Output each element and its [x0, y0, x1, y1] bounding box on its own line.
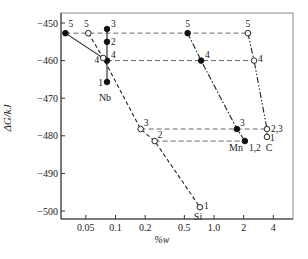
- x-axis-label: %w: [155, 234, 170, 245]
- point-label: 4: [205, 50, 210, 60]
- y-tick-label: −470: [37, 93, 58, 104]
- y-tick-label: −460: [37, 55, 58, 66]
- marker-mn-5: [185, 30, 191, 36]
- marker-c-5: [245, 30, 251, 36]
- point-label: 5: [246, 19, 251, 29]
- data-markers: [63, 26, 270, 210]
- series-line-mn: [188, 33, 245, 141]
- point-label: 3: [240, 118, 245, 128]
- x-tick-label: 0.2: [139, 222, 152, 233]
- axes: −450−460−470−480−490−5000.050.10.20.51.0…: [37, 13, 293, 233]
- series-label-c: C: [266, 142, 273, 153]
- x-tick-label: 4: [271, 222, 276, 233]
- marker-mn-4: [198, 58, 204, 64]
- marker-nb-5: [63, 30, 69, 36]
- series-line-c: [248, 33, 267, 137]
- point-label: 5: [84, 19, 89, 29]
- point-label: 4: [111, 50, 116, 60]
- point-label: 3: [111, 19, 116, 29]
- marker-si-5: [86, 30, 92, 36]
- x-tick-label: 0.1: [109, 222, 122, 233]
- x-tick-label: 0.5: [178, 222, 191, 233]
- point-label: 2: [158, 130, 163, 140]
- x-tick-label: 0.05: [77, 222, 95, 233]
- point-label: 3: [144, 118, 149, 128]
- point-label: 2: [111, 37, 116, 47]
- marker-mn-3: [234, 126, 240, 132]
- y-tick-label: −500: [37, 206, 58, 217]
- marker-si-3: [138, 126, 144, 132]
- plot-border: [61, 13, 293, 219]
- point-label: 1: [204, 201, 209, 211]
- chart: −450−460−470−480−490−5000.050.10.20.51.0…: [0, 0, 308, 259]
- point-label: 4: [258, 54, 263, 64]
- marker-si-2: [152, 138, 158, 144]
- point-label: 1: [98, 78, 103, 88]
- point-label: 5: [185, 19, 190, 29]
- point-label: 4: [94, 55, 99, 65]
- marker-c-4: [251, 58, 257, 64]
- series-label-mn: Mn: [229, 142, 243, 153]
- x-tick-label: 1.0: [208, 222, 221, 233]
- marker-nb-3: [104, 26, 110, 32]
- y-axis-label: ΔG/kJ: [1, 103, 13, 132]
- y-tick-label: −450: [37, 18, 58, 29]
- marker-si-1: [197, 204, 203, 210]
- marker-c-1: [264, 134, 270, 140]
- marker-c-2-3: [264, 126, 270, 132]
- series-label-nb: Nb: [99, 92, 111, 103]
- chart-canvas: −450−460−470−480−490−5000.050.10.20.51.0…: [0, 0, 308, 259]
- marker-si-4: [100, 55, 106, 61]
- marker-mn-1-2: [242, 138, 248, 144]
- point-label: 1,2: [249, 143, 261, 153]
- reference-lines: [65, 33, 267, 141]
- y-tick-label: −480: [37, 130, 58, 141]
- series-label-si: Si: [194, 211, 203, 222]
- y-tick-label: −490: [37, 168, 58, 179]
- marker-nb-1: [104, 79, 110, 85]
- marker-nb-2: [104, 39, 110, 45]
- point-labels: 54321543215431,2542,31: [68, 19, 283, 211]
- x-tick-label: 2: [241, 222, 246, 233]
- plot-frame: [61, 13, 293, 219]
- point-label: 5: [68, 19, 73, 29]
